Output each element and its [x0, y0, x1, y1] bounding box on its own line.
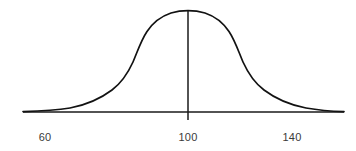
chart-background [0, 0, 356, 151]
x-tick-label-140: 140 [283, 131, 302, 143]
x-tick-label-60: 60 [39, 131, 52, 143]
distribution-chart: 60 100 140 [0, 0, 356, 151]
x-tick-label-100: 100 [179, 131, 198, 143]
normal-distribution-figure: 60 100 140 [0, 0, 356, 151]
